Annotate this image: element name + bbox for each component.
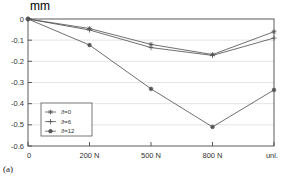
- data-point-marker: [88, 43, 92, 47]
- y-tick-label: -0.4: [11, 99, 24, 108]
- y-tick-label: -0.3: [11, 78, 24, 87]
- legend-entry-label: ϑ=12: [61, 128, 75, 134]
- data-point-marker: [272, 88, 276, 92]
- y-tick-label: 0: [20, 15, 24, 24]
- data-point-marker: [211, 125, 215, 129]
- legend-entry-label: ϑ=6: [61, 119, 72, 125]
- chart-canvas: 0-0.1-0.2-0.3-0.4-0.5-0.6 0200 N500 N800…: [0, 0, 292, 182]
- y-tick-label: -0.1: [11, 36, 24, 45]
- y-axis-tick-labels: 0-0.1-0.2-0.3-0.4-0.5-0.6: [11, 15, 24, 151]
- chart-legend: ϑ=0ϑ=6ϑ=12: [41, 103, 92, 136]
- figure-caption: (a): [3, 164, 13, 174]
- y-tick-label: -0.2: [11, 57, 24, 66]
- data-point-marker: [26, 17, 30, 21]
- y-tick-label: -0.6: [11, 142, 24, 151]
- legend-entry-label: ϑ=0: [61, 109, 72, 115]
- data-point-marker: [48, 110, 53, 115]
- x-tick-label: 500 N: [141, 151, 161, 160]
- x-axis-tick-labels: 0200 N500 N800 Nunl.: [27, 151, 278, 160]
- x-tick-label: 200 N: [79, 151, 99, 160]
- x-tick-label: unl.: [266, 151, 278, 160]
- y-tick-label: -0.5: [11, 120, 24, 129]
- x-tick-label: 0: [27, 151, 31, 160]
- figure-panel: mm 0-0.1-0.2-0.3-0.4-0.5-0.6 0200 N500 N…: [0, 0, 292, 182]
- data-point-marker: [49, 129, 53, 133]
- x-tick-label: 800 N: [202, 151, 222, 160]
- data-point-marker: [272, 29, 277, 34]
- data-point-marker: [149, 87, 153, 91]
